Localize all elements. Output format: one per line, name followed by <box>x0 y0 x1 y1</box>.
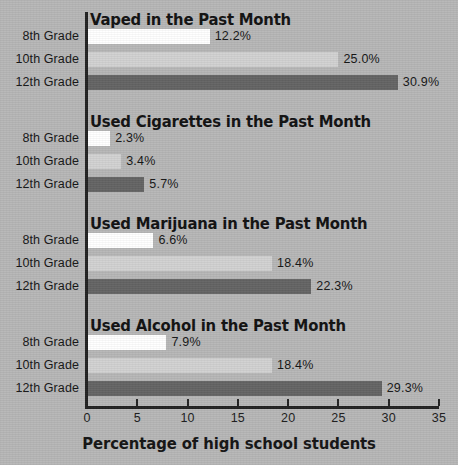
x-axis-tick <box>187 399 189 406</box>
bar-value-label: 7.9% <box>171 335 200 350</box>
bar-category-label: 12th Grade <box>0 381 79 396</box>
chart-bar-row: 8th Grade7.9% <box>0 335 458 350</box>
bar-value-label: 3.4% <box>126 154 155 169</box>
bar-value-label: 29.3% <box>387 381 423 396</box>
chart-figure: Vaped in the Past Month8th Grade12.2%10t… <box>0 0 458 465</box>
chart-bar-row: 10th Grade25.0% <box>0 52 458 67</box>
chart-bar-row: 8th Grade2.3% <box>0 131 458 146</box>
bar-value-label: 25.0% <box>343 52 379 67</box>
panel-title: Vaped in the Past Month <box>90 10 291 29</box>
bar <box>87 177 144 192</box>
bar <box>87 75 398 90</box>
bar-value-label: 30.9% <box>403 75 439 90</box>
bar <box>87 335 166 350</box>
bar <box>87 131 110 146</box>
chart-bar-row: 12th Grade5.7% <box>0 177 458 192</box>
x-axis-tick-label: 0 <box>83 411 90 425</box>
x-axis-spine <box>85 406 439 409</box>
bar-value-label: 6.6% <box>158 233 187 248</box>
bar-category-label: 12th Grade <box>0 177 79 192</box>
bar <box>87 52 338 67</box>
x-axis-tick-label: 30 <box>382 411 396 425</box>
panel-title: Used Cigarettes in the Past Month <box>90 112 371 131</box>
x-axis-tick-label: 10 <box>180 411 194 425</box>
chart-bar-row: 8th Grade6.6% <box>0 233 458 248</box>
x-axis-tick-label: 15 <box>231 411 245 425</box>
panel-title: Used Marijuana in the Past Month <box>90 214 367 233</box>
bar-category-label: 10th Grade <box>0 154 79 169</box>
bar-value-label: 22.3% <box>316 279 352 294</box>
bar-category-label: 10th Grade <box>0 358 79 373</box>
bar-category-label: 8th Grade <box>0 29 79 44</box>
bar-category-label: 8th Grade <box>0 335 79 350</box>
chart-bar-row: 10th Grade3.4% <box>0 154 458 169</box>
x-axis-tick <box>388 399 390 406</box>
x-axis-tick <box>86 399 88 406</box>
bar-value-label: 18.4% <box>277 358 313 373</box>
bar-category-label: 8th Grade <box>0 131 79 146</box>
x-axis-tick-label: 5 <box>134 411 141 425</box>
x-axis-tick <box>237 399 239 406</box>
bar <box>87 279 311 294</box>
x-axis-tick-label: 20 <box>281 411 295 425</box>
chart-bar-row: 12th Grade30.9% <box>0 75 458 90</box>
panel-title: Used Alcohol in the Past Month <box>90 316 346 335</box>
chart-bar-row: 10th Grade18.4% <box>0 358 458 373</box>
x-axis-tick <box>287 399 289 406</box>
bar-category-label: 12th Grade <box>0 75 79 90</box>
bar-value-label: 12.2% <box>215 29 251 44</box>
bar-value-label: 5.7% <box>149 177 178 192</box>
x-axis-tick <box>438 399 440 406</box>
x-axis-tick-label: 25 <box>331 411 345 425</box>
bar <box>87 256 272 271</box>
bar-category-label: 12th Grade <box>0 279 79 294</box>
x-axis-title: Percentage of high school students <box>0 434 458 453</box>
bar-value-label: 2.3% <box>115 131 144 146</box>
x-axis-tick-label: 35 <box>432 411 446 425</box>
y-axis-spine <box>85 12 88 408</box>
chart-bar-row: 8th Grade12.2% <box>0 29 458 44</box>
x-axis-tick <box>337 399 339 406</box>
bar <box>87 358 272 373</box>
bar <box>87 381 382 396</box>
bar <box>87 154 121 169</box>
chart-bar-row: 12th Grade29.3% <box>0 381 458 396</box>
x-axis-tick <box>136 399 138 406</box>
chart-bar-row: 10th Grade18.4% <box>0 256 458 271</box>
bar-category-label: 10th Grade <box>0 52 79 67</box>
chart-bar-row: 12th Grade22.3% <box>0 279 458 294</box>
bar <box>87 29 210 44</box>
bar <box>87 233 153 248</box>
bar-category-label: 8th Grade <box>0 233 79 248</box>
bar-category-label: 10th Grade <box>0 256 79 271</box>
bar-value-label: 18.4% <box>277 256 313 271</box>
